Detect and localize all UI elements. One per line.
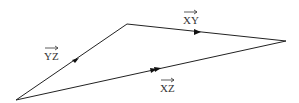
edge-xy: [127, 24, 286, 41]
label-xy: XY: [183, 10, 199, 26]
label-xy-text: XY: [183, 14, 199, 26]
label-xz-text: XZ: [160, 82, 175, 94]
label-yz: YZ: [44, 46, 59, 62]
arrowhead-xy-icon: [194, 29, 201, 35]
label-xz: XZ: [160, 78, 175, 94]
vector-triangle-diagram: YZ XY XZ: [0, 0, 299, 103]
edge-yz: [16, 24, 127, 100]
label-yz-text: YZ: [44, 50, 59, 62]
